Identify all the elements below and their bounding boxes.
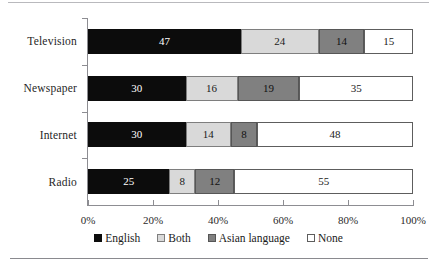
legend-item-english[interactable]: English [94, 232, 140, 244]
bar-segment[interactable]: 14 [186, 122, 232, 147]
bar-row: Television47241415 [88, 29, 413, 54]
x-axis-line [87, 205, 413, 206]
legend-label: Both [168, 232, 190, 244]
bar-segment-value: 24 [274, 36, 285, 47]
bar-segment-value: 14 [336, 36, 347, 47]
x-axis-tick [88, 200, 89, 206]
bar-row: Radio2581255 [88, 169, 413, 194]
x-axis-label: 20% [143, 214, 163, 226]
legend-item-asian-language[interactable]: Asian language [208, 232, 290, 244]
bar-row: Newspaper30161935 [88, 76, 413, 101]
bar-segment-value: 8 [180, 176, 186, 187]
figure-bottom-rule [10, 258, 428, 259]
legend-item-both[interactable]: Both [157, 232, 190, 244]
bar-segment-value: 14 [203, 129, 214, 140]
x-axis-tick [413, 200, 414, 206]
bar-segment[interactable]: 8 [231, 122, 257, 147]
category-label-newspaper: Newspaper [23, 82, 77, 94]
bar-segment-value: 19 [263, 83, 274, 94]
x-axis-label: 60% [273, 214, 293, 226]
bar-row: Internet3014848 [88, 122, 413, 147]
y-axis-tick [82, 112, 87, 113]
legend-item-none[interactable]: None [307, 232, 343, 244]
x-axis-tick [283, 200, 284, 206]
figure-top-rule [8, 2, 429, 3]
bar-segment[interactable]: 30 [88, 76, 186, 101]
x-axis-label: 40% [208, 214, 228, 226]
category-label-radio: Radio [49, 176, 77, 188]
chart-legend: EnglishBothAsian languageNone [0, 232, 437, 244]
bar-segment[interactable]: 12 [195, 169, 234, 194]
bar-segment-value: 30 [131, 129, 142, 140]
x-axis-tick [153, 200, 154, 206]
bar-segment[interactable]: 35 [299, 76, 413, 101]
bar-segment[interactable]: 55 [234, 169, 413, 194]
legend-label: None [318, 232, 343, 244]
plot-area: Television47241415Newspaper30161935Inter… [88, 18, 413, 205]
bar-segment[interactable]: 16 [186, 76, 238, 101]
bar-segment-value: 30 [131, 83, 142, 94]
y-axis-tick [82, 158, 87, 159]
bar-segment-value: 8 [241, 129, 247, 140]
bar-segment-value: 25 [123, 176, 134, 187]
legend-swatch-icon [94, 234, 102, 242]
stacked-bar-chart-figure: Television47241415Newspaper30161935Inter… [0, 0, 437, 269]
legend-label: English [105, 232, 140, 244]
x-axis-tick [348, 200, 349, 206]
bar-segment[interactable]: 48 [257, 122, 413, 147]
category-label-television: Television [27, 35, 77, 47]
legend-swatch-icon [208, 234, 216, 242]
bar-segment[interactable]: 19 [238, 76, 300, 101]
x-axis-label: 80% [338, 214, 358, 226]
bar-segment-value: 47 [159, 36, 170, 47]
y-axis-tick [82, 18, 87, 19]
x-axis-label: 100% [400, 214, 426, 226]
legend-swatch-icon [157, 234, 165, 242]
bar-segment-value: 35 [351, 83, 362, 94]
y-axis-tick [82, 65, 87, 66]
bar-segment-value: 48 [330, 129, 341, 140]
bar-segment-value: 12 [209, 176, 220, 187]
x-axis-label: 0% [81, 214, 96, 226]
category-label-internet: Internet [40, 129, 77, 141]
x-axis-tick [218, 200, 219, 206]
bar-segment-value: 16 [206, 83, 217, 94]
bar-segment[interactable]: 14 [319, 29, 365, 54]
legend-label: Asian language [219, 232, 290, 244]
bar-segment[interactable]: 47 [88, 29, 241, 54]
bar-segment-value: 15 [383, 36, 394, 47]
bar-segment[interactable]: 25 [88, 169, 169, 194]
bar-segment[interactable]: 15 [364, 29, 413, 54]
bar-segment[interactable]: 8 [169, 169, 195, 194]
bar-segment[interactable]: 30 [88, 122, 186, 147]
bar-segment[interactable]: 24 [241, 29, 319, 54]
legend-swatch-icon [307, 234, 315, 242]
bar-segment-value: 55 [318, 176, 329, 187]
